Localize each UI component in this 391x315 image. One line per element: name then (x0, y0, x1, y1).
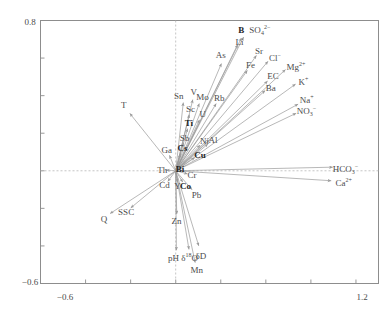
vector-arrow-Li (176, 45, 238, 171)
vector-arrow-As (176, 64, 222, 171)
vector-arrow-d18O (176, 171, 189, 250)
vector-arrow-K (176, 84, 296, 171)
vector-arrow-U (176, 120, 200, 171)
vector-arrow-Fe (176, 70, 248, 170)
vector-arrow-SSC (131, 171, 176, 208)
vector-arrow-Th (166, 170, 176, 171)
vector-arrow-Ba (176, 91, 265, 171)
vector-arrow-Mn (176, 171, 195, 263)
vector-arrow-Ga (170, 155, 176, 170)
vector-arrow-dD (176, 171, 199, 246)
biplot-figure: BSO42−LiAsSrCl−FeMg2+ECK+BaNa+NO3−VMoRbS… (0, 0, 391, 315)
vector-arrow-Ca2 (176, 171, 332, 181)
y-axis-tick-top: 0.8 (24, 18, 35, 27)
vector-arrow-T (130, 113, 176, 170)
y-axis-tick-bottom: −0.6 (22, 278, 38, 287)
vector-arrow-Q (110, 171, 176, 214)
x-axis-tick-left: −0.6 (57, 293, 73, 302)
x-axis-tick-right: 1.2 (356, 293, 367, 302)
vector-arrow-NO3 (176, 113, 296, 171)
vector-arrow-HCO3 (176, 167, 333, 171)
plot-canvas (0, 0, 391, 315)
vector-arrows (110, 37, 333, 262)
vector-arrow-EC (176, 81, 268, 171)
